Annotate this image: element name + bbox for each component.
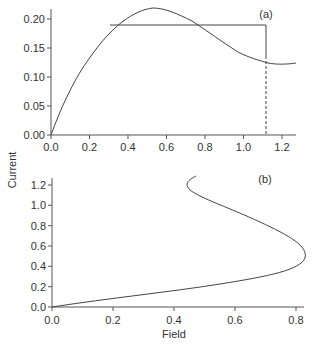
tick-label: 0.0 <box>44 314 59 326</box>
tick-label: 0.05 <box>24 100 45 112</box>
panel-a-y-ticks <box>47 19 51 135</box>
tick-label: 0.6 <box>159 141 174 153</box>
tick-label: 1.2 <box>31 179 46 191</box>
panel-b-y-tick-labels: 0.0 0.2 0.4 0.6 0.8 1.0 1.2 <box>31 179 46 313</box>
tick-label: 0.8 <box>31 220 46 232</box>
panel-b-x-ticks <box>52 307 296 311</box>
panel-b-x-tick-labels: 0.0 0.2 0.4 0.6 0.8 <box>44 314 303 326</box>
tick-label: 0.20 <box>24 13 45 25</box>
y-axis-title: Current <box>6 152 18 189</box>
tick-label: 1.0 <box>31 199 46 211</box>
panel-a-x-ticks <box>51 135 282 139</box>
panel-a-x-tick-labels: 0.0 0.2 0.4 0.6 0.8 1.0 1.2 <box>43 141 289 153</box>
panel-a-plateau-line <box>110 25 266 56</box>
tick-label: 0.0 <box>43 141 58 153</box>
tick-label: 1.2 <box>274 141 289 153</box>
panel-a-curve <box>51 8 296 135</box>
figure: 0.00 0.05 0.10 0.15 0.20 0.0 0.2 0.4 0.6… <box>0 0 315 354</box>
tick-label: 0.8 <box>288 314 303 326</box>
tick-label: 0.4 <box>120 141 135 153</box>
tick-label: 0.0 <box>31 301 46 313</box>
tick-label: 0.10 <box>24 71 45 83</box>
tick-label: 0.2 <box>105 314 120 326</box>
tick-label: 0.4 <box>166 314 181 326</box>
tick-label: 1.0 <box>236 141 251 153</box>
tick-label: 0.6 <box>227 314 242 326</box>
x-axis-title: Field <box>162 328 186 340</box>
panel-a-label: (a) <box>259 8 272 20</box>
tick-label: 0.8 <box>197 141 212 153</box>
panel-b-curve <box>52 176 305 307</box>
panel-b: 0.0 0.2 0.4 0.6 0.8 1.0 1.2 0.0 0.2 0.4 … <box>31 173 306 326</box>
panel-a-y-tick-labels: 0.00 0.05 0.10 0.15 0.20 <box>24 13 45 141</box>
tick-label: 0.2 <box>31 281 46 293</box>
panel-b-y-ticks <box>48 185 52 307</box>
tick-label: 0.4 <box>31 260 46 272</box>
panel-b-label: (b) <box>258 173 271 185</box>
tick-label: 0.15 <box>24 42 45 54</box>
panel-a: 0.00 0.05 0.10 0.15 0.20 0.0 0.2 0.4 0.6… <box>24 8 296 153</box>
tick-label: 0.2 <box>82 141 97 153</box>
tick-label: 0.6 <box>31 240 46 252</box>
tick-label: 0.00 <box>24 129 45 141</box>
